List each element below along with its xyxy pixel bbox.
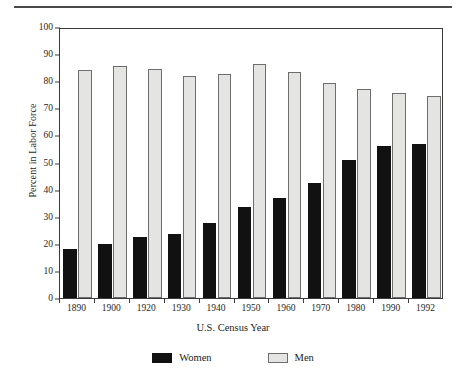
y-tick-label: 20 (23, 240, 53, 250)
x-tick-label: 1960 (276, 303, 295, 313)
y-tick-label: 40 (23, 186, 53, 196)
x-tick-label: 1890 (67, 303, 86, 313)
bar-men (288, 72, 302, 298)
chart-figure: Percent in Labor Force 01020304050607080… (0, 0, 466, 384)
x-tick-mark (94, 299, 95, 303)
y-tick-mark (55, 163, 60, 164)
x-tick-mark (59, 299, 60, 303)
y-tick-mark (55, 244, 60, 245)
bar-women (273, 198, 287, 298)
bar-women (377, 146, 391, 298)
y-tick-label: 50 (23, 159, 53, 169)
bar-group (63, 70, 92, 298)
plot-inner (60, 29, 442, 298)
x-tick-label: 1900 (102, 303, 121, 313)
x-tick-mark (303, 299, 304, 303)
bar-group (203, 74, 232, 298)
bar-group (273, 72, 302, 298)
bar-women (308, 183, 322, 298)
x-tick-mark (373, 299, 374, 303)
y-tick-mark (55, 28, 60, 29)
bar-men (113, 66, 127, 298)
x-axis-title: U.S. Census Year (0, 322, 466, 333)
y-tick-mark (55, 217, 60, 218)
y-tick-label: 0 (23, 294, 53, 304)
bar-men (183, 76, 197, 298)
y-tick-mark (55, 55, 60, 56)
bar-men (218, 74, 232, 298)
bar-women (168, 234, 182, 298)
x-tick-label: 1920 (137, 303, 156, 313)
y-tick-label: 100 (23, 23, 53, 33)
x-tick-mark (199, 299, 200, 303)
top-rule-divider (14, 6, 452, 8)
y-tick-label: 60 (23, 132, 53, 142)
bar-women (133, 237, 147, 298)
x-tick-mark (129, 299, 130, 303)
bar-men (78, 70, 92, 298)
y-tick-mark (55, 190, 60, 191)
x-tick-mark (408, 299, 409, 303)
bar-group (98, 66, 127, 298)
y-tick-label: 10 (23, 267, 53, 277)
bar-men (148, 69, 162, 298)
bar-men (253, 64, 267, 298)
legend-item-men: Men (268, 352, 314, 363)
x-tick-label: 1992 (416, 303, 435, 313)
y-tick-label: 70 (23, 105, 53, 115)
bar-men (392, 93, 406, 298)
x-tick-mark (164, 299, 165, 303)
bar-men (427, 96, 441, 298)
bar-group (133, 69, 162, 298)
bar-women (203, 223, 217, 298)
y-tick-mark (55, 109, 60, 110)
x-tick-label: 1940 (207, 303, 226, 313)
y-tick-label: 90 (23, 50, 53, 60)
bar-group (168, 76, 197, 298)
y-tick-mark (55, 271, 60, 272)
bar-women (412, 144, 426, 298)
bar-men (323, 83, 337, 298)
bar-group (377, 93, 406, 298)
bar-women (63, 249, 77, 298)
bar-men (357, 89, 371, 298)
bar-group (308, 83, 337, 298)
y-tick-label: 80 (23, 77, 53, 87)
legend: Women Men (0, 352, 466, 363)
bar-women (238, 207, 252, 298)
x-tick-label: 1930 (172, 303, 191, 313)
legend-label-men: Men (295, 352, 314, 363)
plot-area (59, 28, 443, 299)
legend-item-women: Women (152, 352, 211, 363)
y-tick-mark (55, 82, 60, 83)
x-tick-mark (268, 299, 269, 303)
x-tick-label: 1950 (242, 303, 261, 313)
legend-swatch-women (152, 353, 172, 363)
x-tick-label: 1990 (381, 303, 400, 313)
x-tick-mark (338, 299, 339, 303)
legend-label-women: Women (179, 352, 211, 363)
bar-group (238, 64, 267, 298)
bar-women (98, 244, 112, 298)
bar-group (342, 89, 371, 298)
bar-women (342, 160, 356, 298)
x-tick-label: 1980 (346, 303, 365, 313)
legend-swatch-men (268, 353, 288, 363)
y-tick-mark (55, 136, 60, 137)
x-tick-label: 1970 (311, 303, 330, 313)
y-tick-label: 30 (23, 213, 53, 223)
bar-group (412, 96, 441, 298)
x-tick-mark (234, 299, 235, 303)
